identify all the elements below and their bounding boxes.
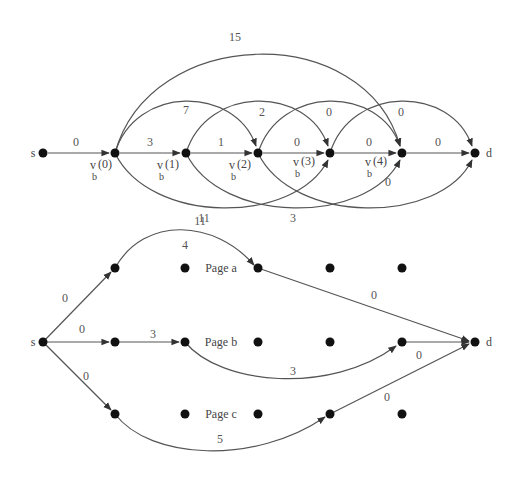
weight-label: 0 [62, 291, 68, 305]
node-b3 [254, 338, 263, 347]
weight-label: 3 [150, 327, 156, 341]
weight-label: 0 [435, 135, 441, 149]
node-v1 [182, 149, 191, 158]
svg-text:b: b [159, 171, 164, 182]
node-c5 [398, 410, 407, 419]
weight-label: 3 [290, 364, 296, 378]
edge-s-a1 [43, 272, 111, 342]
node-v4 [398, 149, 407, 158]
svg-text:(1): (1) [165, 157, 179, 171]
node-label-s: s [31, 335, 36, 349]
svg-text:(0): (0) [98, 157, 112, 171]
svg-text:v: v [90, 158, 96, 172]
node-label-s: s [31, 146, 36, 160]
svg-text:(2): (2) [237, 157, 251, 171]
weight-label: 0 [385, 175, 391, 189]
page-label-a: Page a [205, 261, 237, 275]
weight-label: 1 [218, 135, 224, 149]
weight-label: 0 [398, 105, 404, 119]
node-label-v2: v b (2) [229, 157, 251, 182]
svg-text:v: v [365, 155, 371, 169]
node-label-v3: v b (3) [293, 154, 315, 179]
edge-v0-v4 [115, 54, 400, 153]
graph-diagram: 0 3 1 0 0 0 7 2 0 0 15 11 3 0 s d v b (0… [0, 0, 523, 481]
weight-label: 7 [183, 103, 189, 117]
node-c2 [181, 410, 190, 419]
node-a1 [111, 264, 120, 273]
edge-v1-v3 [186, 101, 328, 153]
node-a5 [398, 264, 407, 273]
node-a2 [181, 264, 190, 273]
node-label-d: d [486, 146, 492, 160]
node-c1 [111, 410, 120, 419]
node-label-v1: v b (1) [157, 157, 179, 182]
node-b1 [111, 338, 120, 347]
page-label-b: Page b [205, 335, 237, 349]
weight-label: 0 [384, 390, 390, 404]
edge-s-c1 [43, 342, 111, 410]
top-graph: 0 3 1 0 0 0 7 2 0 0 15 11 3 0 s d v b (0… [31, 30, 492, 225]
node-a4 [326, 264, 335, 273]
node-s [39, 149, 48, 158]
weight-label: 0 [371, 288, 377, 302]
weight-label: 11 [194, 214, 206, 228]
weight-label: 3 [147, 135, 153, 149]
svg-text:v: v [293, 155, 299, 169]
weight-label: 0 [366, 135, 372, 149]
node-b2 [181, 338, 190, 347]
node-a3 [254, 264, 263, 273]
node-s [39, 338, 48, 347]
weight-label: 0 [73, 135, 79, 149]
node-c3 [254, 410, 263, 419]
svg-text:v: v [229, 158, 235, 172]
weight-label: 5 [217, 432, 223, 446]
svg-text:b: b [231, 171, 236, 182]
edge-a3-d [258, 268, 469, 341]
weight-label: 0 [79, 322, 85, 336]
weight-label: 4 [182, 238, 188, 252]
node-label-v0: v b (0) [90, 157, 112, 182]
weight-label: 3 [290, 211, 296, 225]
weight-label: 0 [294, 135, 300, 149]
weight-label: 0 [326, 105, 332, 119]
svg-text:(4): (4) [373, 154, 387, 168]
node-v2 [254, 149, 263, 158]
page-label-c: Page c [205, 407, 237, 421]
svg-text:v: v [157, 158, 163, 172]
weight-label: 0 [83, 369, 89, 383]
bottom-graph: 0 0 0 11 4 0 3 3 0 5 0 s d Page a [31, 214, 492, 451]
node-b4 [326, 338, 335, 347]
svg-text:(3): (3) [301, 154, 315, 168]
weight-label: 15 [229, 30, 241, 44]
node-c4 [326, 410, 335, 419]
svg-text:b: b [367, 168, 372, 179]
node-b5 [398, 338, 407, 347]
node-label-d: d [486, 335, 492, 349]
node-d [471, 338, 480, 347]
svg-text:b: b [92, 171, 97, 182]
node-d [471, 149, 480, 158]
svg-text:b: b [295, 168, 300, 179]
edge-c4-d [330, 344, 469, 414]
node-v3 [326, 149, 335, 158]
node-label-v4: v b (4) [365, 154, 387, 179]
weight-label: 2 [259, 105, 265, 119]
weight-label: 0 [416, 348, 422, 362]
